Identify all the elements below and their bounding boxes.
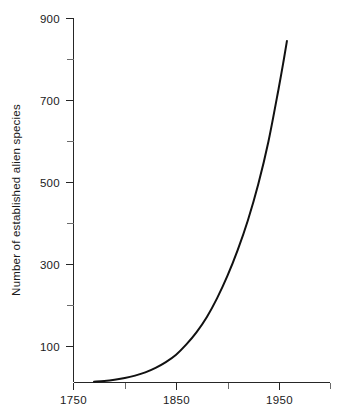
chart-plot-area: 900 700 500 300 100 1750 1850 1950 Numbe… <box>0 0 341 415</box>
y-tick-label-500: 500 <box>40 177 60 189</box>
chart-figure: 900 700 500 300 100 1750 1850 1950 Numbe… <box>0 0 341 415</box>
data-curve-established-alien-species <box>94 41 287 382</box>
y-tick-label-300: 300 <box>40 259 60 271</box>
y-tick-label-900: 900 <box>40 13 60 25</box>
x-tick-label-1950: 1950 <box>266 394 293 406</box>
x-tick-label-1750: 1750 <box>60 394 87 406</box>
y-tick-label-700: 700 <box>40 95 60 107</box>
y-axis-title: Number of established alien species <box>10 104 22 296</box>
x-tick-label-1850: 1850 <box>163 394 190 406</box>
y-tick-label-100: 100 <box>40 341 60 353</box>
